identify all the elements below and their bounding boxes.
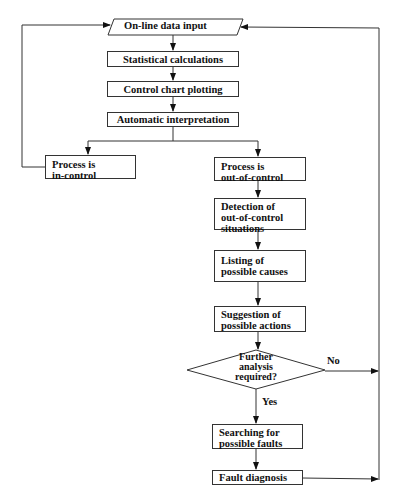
node-actions-line1: Suggestion of bbox=[221, 309, 305, 320]
arrow-diagnosis-loop bbox=[302, 478, 378, 479]
node-causes-line1: Listing of bbox=[221, 255, 305, 266]
node-causes: Listing of possible causes bbox=[214, 250, 306, 282]
node-in-control-line2: in-control bbox=[52, 170, 135, 181]
node-detection-line1: Detection of bbox=[221, 201, 305, 212]
node-detection-line3: situations bbox=[221, 223, 305, 234]
loop-incontrol-to-input bbox=[22, 25, 110, 167]
node-input: On-line data input bbox=[124, 20, 207, 31]
arrow-interp-outcontrol bbox=[173, 141, 258, 156]
node-actions: Suggestion of possible actions bbox=[214, 306, 306, 332]
node-out-control-line1: Process is bbox=[221, 161, 305, 172]
node-plot: Control chart plotting bbox=[107, 81, 239, 97]
node-search: Searching for possible faults bbox=[212, 424, 303, 449]
node-stats: Statistical calculations bbox=[107, 51, 239, 67]
flowchart-connectors bbox=[0, 0, 400, 498]
node-in-control-line1: Process is bbox=[52, 159, 135, 170]
node-search-line1: Searching for bbox=[219, 427, 302, 438]
edge-label-no: No bbox=[327, 355, 340, 366]
node-decision: Further analysis required? bbox=[226, 352, 286, 382]
node-out-control-line2: out-of-control bbox=[221, 172, 305, 183]
node-causes-line2: possible causes bbox=[221, 266, 305, 277]
node-in-control: Process is in-control bbox=[45, 155, 136, 179]
node-actions-line2: possible actions bbox=[221, 320, 305, 331]
node-search-line2: possible faults bbox=[219, 438, 302, 449]
node-diagnosis: Fault diagnosis bbox=[212, 470, 303, 485]
node-detection: Detection of out-of-control situations bbox=[214, 198, 306, 230]
node-interp: Automatic interpretation bbox=[107, 112, 239, 127]
node-detection-line2: out-of-control bbox=[221, 212, 305, 223]
node-out-control: Process is out-of-control bbox=[214, 157, 306, 181]
node-decision-line3: required? bbox=[226, 372, 286, 382]
arrow-interp-incontrol bbox=[88, 126, 173, 154]
edge-label-yes: Yes bbox=[262, 396, 277, 407]
